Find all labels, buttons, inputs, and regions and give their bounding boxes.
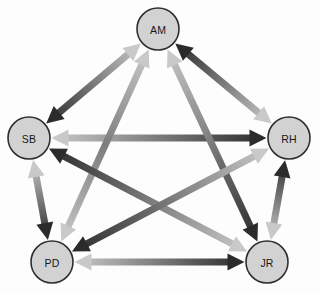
arrowhead — [52, 130, 69, 147]
node-jr[interactable]: JR — [246, 241, 288, 283]
edge-pd-jr — [75, 254, 245, 271]
arrowhead — [28, 160, 45, 178]
edge-shaft — [67, 61, 144, 230]
edge-rh-jr — [266, 160, 291, 240]
edge-shaft — [173, 61, 252, 230]
arrowhead — [228, 254, 245, 271]
node-label: PD — [45, 257, 60, 269]
node-sb[interactable]: SB — [8, 117, 50, 159]
arrowhead — [250, 130, 267, 147]
sociogram-diagram: AMSBRHPDJR — [0, 0, 320, 293]
arrowhead — [274, 160, 291, 178]
arrowhead — [266, 222, 283, 240]
arrowhead — [75, 254, 92, 271]
node-rh[interactable]: RH — [268, 117, 310, 159]
edge-shaft — [60, 154, 235, 245]
edge-shaft — [35, 173, 45, 228]
node-label: SB — [22, 133, 36, 145]
node-am[interactable]: AM — [137, 8, 179, 50]
node-label: JR — [260, 257, 273, 269]
edge-shaft — [83, 154, 258, 245]
edge-am-rh — [175, 43, 271, 123]
edge-shaft — [273, 173, 283, 228]
nodes-layer: AMSBRHPDJR — [8, 8, 310, 283]
edge-sb-pd — [28, 160, 53, 240]
graph-canvas: AMSBRHPDJR — [0, 0, 320, 293]
node-label: RH — [281, 133, 297, 145]
edges-layer — [28, 43, 291, 270]
edge-sb-rh — [52, 130, 267, 147]
arrowhead — [36, 222, 53, 240]
edge-sb-am — [46, 44, 141, 124]
node-pd[interactable]: PD — [31, 241, 73, 283]
node-label: AM — [150, 24, 166, 36]
